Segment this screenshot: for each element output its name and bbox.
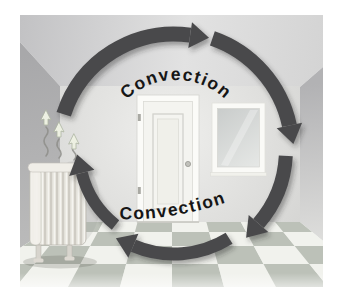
window [211, 103, 267, 176]
radiator-leg-left [36, 243, 41, 261]
door-hinge-top [138, 114, 141, 121]
page: { "diagram": { "labels": { "top_label": … [0, 0, 342, 296]
floor-front-fade [20, 273, 323, 287]
right-wall [300, 67, 323, 241]
radiator-foot-right [65, 257, 75, 261]
radiator-front-pillar [30, 169, 41, 245]
floor-tile [98, 222, 138, 232]
floor-tile [172, 222, 209, 232]
scene-svg: Convection Convection [20, 15, 323, 287]
window-sill [211, 173, 267, 177]
convection-room-illustration: Convection Convection [20, 15, 323, 287]
door-panel [158, 119, 179, 204]
radiator-foot-left [34, 259, 44, 263]
door-knob [185, 161, 190, 166]
door-hinge-bottom [138, 187, 141, 194]
floor-tile [206, 222, 246, 232]
floor-tile [135, 222, 172, 232]
